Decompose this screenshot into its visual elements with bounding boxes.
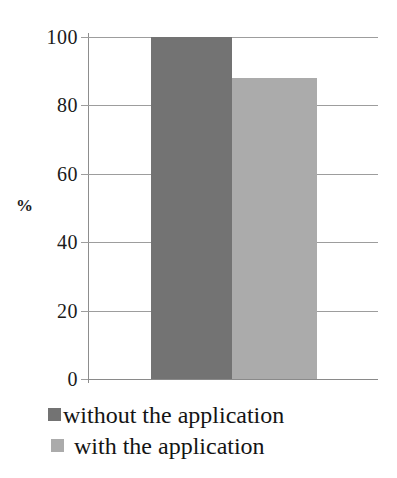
legend-swatch-icon-light: [51, 439, 64, 452]
y-tick-label-60: 60: [8, 164, 78, 184]
gridline-100: [88, 37, 378, 38]
plot-area: [88, 37, 378, 379]
bar-chart-figure: % 100 80 60 40 20 0 without the applicat…: [0, 0, 397, 478]
y-tick-label-100: 100: [8, 27, 78, 47]
legend-label-with-the-application: with the application: [74, 433, 265, 459]
bar-with-the-application: [232, 78, 317, 379]
legend-label-without-the-application: without the application: [63, 402, 284, 428]
chart-legend: without the application with the applica…: [48, 399, 393, 461]
y-tick-label-0: 0: [8, 369, 78, 389]
gridline-0: [88, 379, 378, 380]
y-tick-label-40: 40: [8, 232, 78, 252]
bar-without-the-application: [151, 37, 232, 379]
y-tick-label-80: 80: [8, 95, 78, 115]
legend-swatch-icon-dark: [48, 408, 61, 421]
legend-item-without-the-application: without the application: [48, 399, 393, 430]
legend-item-with-the-application: with the application: [48, 430, 393, 461]
y-tick-label-20: 20: [8, 301, 78, 321]
